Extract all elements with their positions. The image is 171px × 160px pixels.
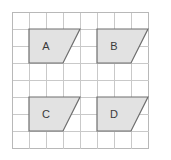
- shape-c-label: C: [42, 108, 50, 120]
- shape-d-label: D: [110, 108, 118, 120]
- figure-container: A B C D: [0, 0, 171, 160]
- shape-a-label: A: [42, 40, 50, 52]
- shape-b-label: B: [110, 40, 117, 52]
- geometry-figure: A B C D: [0, 0, 171, 160]
